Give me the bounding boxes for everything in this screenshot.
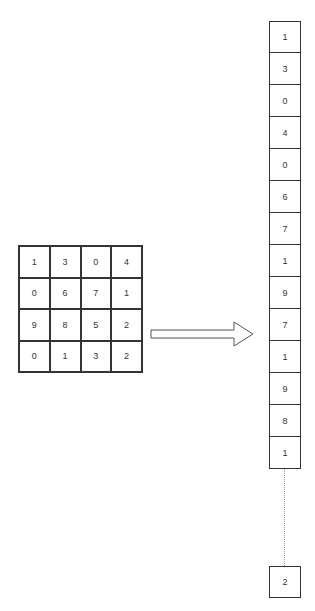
vector-last-cell: 2 [269,566,301,598]
matrix-cell: 1 [111,278,142,310]
vector-cell: 1 [269,341,301,373]
matrix-cell: 3 [50,246,81,278]
matrix-cell: 3 [81,341,112,373]
matrix-cell: 4 [111,246,142,278]
ellipsis-dotted-line [284,469,285,566]
matrix-cell: 0 [19,341,50,373]
vector-cell: 0 [269,85,301,117]
vector-cell: 0 [269,149,301,181]
vector-cell: 8 [269,405,301,437]
vector-cell: 3 [269,53,301,85]
matrix-cell: 2 [111,341,142,373]
matrix-cell: 5 [81,309,112,341]
matrix-cell: 6 [50,278,81,310]
matrix-cell: 1 [50,341,81,373]
matrix-cell: 9 [19,309,50,341]
vector-cell: 1 [269,21,301,53]
vector-cell: 9 [269,277,301,309]
vector-cell: 1 [269,437,301,469]
vector-cell: 7 [269,213,301,245]
vector-cell: 7 [269,309,301,341]
right-arrow-icon [150,321,255,347]
input-matrix: 1 3 0 4 0 6 7 1 9 8 5 2 0 1 3 2 [18,245,143,373]
matrix-cell: 0 [19,278,50,310]
vector-cell: 6 [269,181,301,213]
matrix-cell: 2 [111,309,142,341]
vector-cell: 9 [269,373,301,405]
matrix-cell: 0 [81,246,112,278]
matrix-cell: 8 [50,309,81,341]
matrix-cell: 7 [81,278,112,310]
matrix-cell: 1 [19,246,50,278]
vector-cell: 4 [269,117,301,149]
vector-cell: 1 [269,245,301,277]
flattened-vector: 1 3 0 4 0 6 7 1 9 7 1 9 8 1 [269,21,301,469]
